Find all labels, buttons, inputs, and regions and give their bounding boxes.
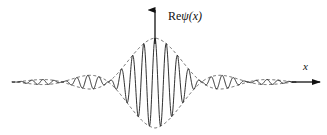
- y-axis-label-prefix: Re: [168, 9, 181, 23]
- wave-packet-plot: [0, 0, 327, 135]
- wave-packet-figure: Reψ(x) x: [0, 0, 327, 135]
- y-axis-label-symbol: ψ: [181, 9, 188, 23]
- envelope-lower: [12, 82, 296, 128]
- wavefunction-path: [12, 38, 296, 126]
- y-axis-label: Reψ(x): [168, 10, 202, 22]
- wavefunction-curve: [12, 38, 296, 126]
- y-axis-label-argument: (x): [189, 9, 202, 23]
- x-axis-label: x: [303, 61, 308, 72]
